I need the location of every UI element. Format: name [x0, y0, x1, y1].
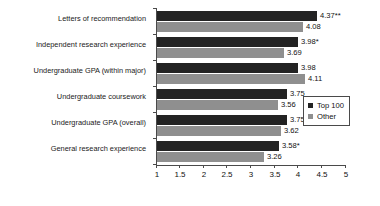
bar-value-label: 3.26 — [267, 153, 282, 161]
x-axis-tick — [226, 165, 227, 168]
bar-top100 — [157, 141, 279, 151]
bar-value-label: 4.08 — [306, 23, 321, 31]
bar-top100 — [157, 115, 287, 125]
bar-other — [157, 22, 303, 32]
bar-other — [157, 126, 281, 136]
bar-other — [157, 48, 284, 58]
bar-value-label: 3.62 — [284, 127, 299, 135]
bar-top100 — [157, 11, 317, 21]
x-axis-line — [156, 165, 346, 166]
y-axis-tick — [153, 8, 156, 9]
category-axis-labels: Letters of recommendation Independent re… — [0, 8, 151, 165]
bar-value-label: 3.69 — [287, 49, 302, 57]
x-axis-tick — [250, 165, 251, 168]
bar-top100 — [157, 63, 298, 73]
legend-item-other: Other — [308, 111, 344, 122]
x-axis-tick-label: 1.5 — [174, 170, 185, 180]
x-axis-tick — [345, 165, 346, 168]
x-axis-tick — [274, 165, 275, 168]
legend-swatch-icon — [308, 103, 313, 108]
category-label: Undergraduate GPA (within major) — [0, 67, 146, 75]
x-axis-tick-label: 1 — [155, 170, 159, 180]
x-axis-tick-label: 4.5 — [316, 170, 327, 180]
x-axis-tick-label: 2.5 — [221, 170, 232, 180]
x-axis-tick — [156, 165, 157, 168]
category-label: Undergraduate coursework — [0, 93, 146, 101]
bar-value-label: 3.58* — [282, 142, 300, 150]
y-axis-tick — [153, 138, 156, 139]
chart-legend: Top 100 Other — [303, 96, 350, 126]
plot-area: 4.37** 4.08 3.98* 3.69 3.98 4.11 3.75 3.… — [156, 8, 346, 165]
bar-value-label: 4.37** — [320, 12, 341, 20]
bar-value-label: 3.98 — [301, 64, 316, 72]
x-axis-tick-label: 3 — [249, 170, 253, 180]
x-axis-tick-label: 4 — [296, 170, 300, 180]
category-label: General research experience — [0, 145, 146, 153]
bar-value-label: 3.56 — [281, 101, 296, 109]
category-label: Letters of recommendation — [0, 15, 146, 23]
bar-other — [157, 100, 278, 110]
category-label: Independent research experience — [0, 41, 146, 49]
x-axis-labels: 1 1.5 2 2.5 3 3.5 4 4.5 5 — [156, 170, 346, 182]
y-axis-tick — [153, 86, 156, 87]
y-axis-tick — [153, 112, 156, 113]
bar-chart: Letters of recommendation Independent re… — [0, 0, 380, 206]
y-axis-tick — [153, 60, 156, 61]
category-label: Undergraduate GPA (overall) — [0, 119, 146, 127]
x-axis-tick-label: 5 — [344, 170, 348, 180]
bar-value-label: 3.98* — [301, 38, 319, 46]
bar-other — [157, 152, 264, 162]
bar-top100 — [157, 37, 298, 47]
legend-swatch-icon — [308, 114, 313, 119]
x-axis-tick — [297, 165, 298, 168]
x-axis-tick — [321, 165, 322, 168]
x-axis-tick — [203, 165, 204, 168]
legend-item-top100: Top 100 — [308, 100, 344, 111]
x-axis-tick-label: 3.5 — [269, 170, 280, 180]
bar-other — [157, 74, 305, 84]
bar-value-label: 4.11 — [308, 75, 322, 83]
legend-label: Top 100 — [317, 101, 344, 110]
y-axis-tick — [153, 34, 156, 35]
legend-label: Other — [317, 112, 336, 121]
x-axis-tick-label: 2 — [202, 170, 206, 180]
x-axis-tick — [179, 165, 180, 168]
bar-top100 — [157, 89, 287, 99]
